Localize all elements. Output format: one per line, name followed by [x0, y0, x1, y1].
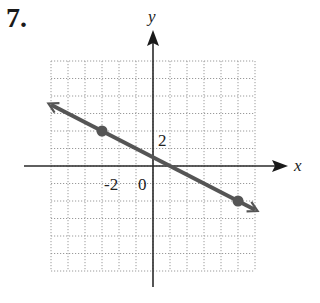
x-axis-label: x [293, 156, 302, 175]
axes: x y 2 -2 0 [24, 7, 302, 287]
y-tick-label: 2 [158, 131, 167, 150]
y-axis-label: y [146, 7, 156, 26]
origin-label: 0 [138, 175, 147, 194]
coordinate-graph: x y 2 -2 0 [0, 0, 320, 303]
x-tick-label: -2 [104, 175, 118, 194]
data-point [233, 196, 244, 207]
data-point [97, 126, 108, 137]
